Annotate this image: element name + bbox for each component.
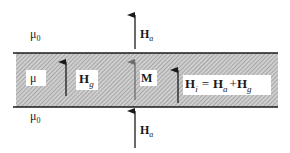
top-medium-label: μ0 — [30, 27, 40, 43]
applied-field-top-label: Ha — [140, 27, 153, 43]
applied-field-bottom-label: Ha — [140, 123, 153, 139]
magnetization-label: M — [141, 71, 152, 85]
film-medium-label: μ — [30, 71, 36, 85]
magnetic-film-diagram: μ0 Ha μ Hg M Hi=Ha+Hg μ0 Ha — [0, 0, 290, 153]
bottom-medium-label: μ0 — [30, 109, 40, 125]
